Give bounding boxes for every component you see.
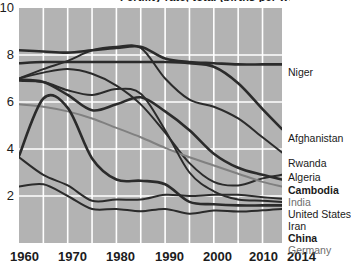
chart-title: Fertility rate, total (births per woman) (120, 0, 290, 2)
x-tick-2000: 2000 (203, 249, 232, 264)
legend-label-afghanistan: Afghanistan (288, 133, 343, 144)
series-line-afghanistan (19, 62, 282, 129)
legend-label-cambodia: Cambodia (288, 185, 339, 196)
x-tick-1960: 1960 (10, 249, 39, 264)
series-line-cambodia (19, 80, 282, 180)
x-tick-1990: 1990 (155, 249, 184, 264)
fertility-rate-line-chart: Fertility rate, total (births per woman)… (0, 0, 351, 273)
x-tick-2010: 2010 (249, 249, 278, 264)
x-tick-1980: 1980 (106, 249, 135, 264)
legend-label-united-states: United States (288, 209, 351, 220)
plot-area (19, 8, 282, 243)
series-line-china (19, 95, 282, 205)
x-tick-1970: 1970 (58, 249, 87, 264)
legend-label-algeria: Algeria (288, 172, 321, 183)
legend-label-rwanda: Rwanda (288, 158, 327, 169)
legend-label-germany: Germany (288, 245, 331, 256)
legend-label-niger: Niger (288, 67, 313, 78)
series-line-germany (19, 184, 282, 214)
legend-label-iran: Iran (288, 221, 306, 232)
series-lines (19, 8, 282, 243)
series-line-india (19, 104, 282, 186)
series-line-united-states (19, 157, 282, 201)
legend-label-india: India (288, 197, 311, 208)
legend-label-china: China (288, 233, 317, 244)
